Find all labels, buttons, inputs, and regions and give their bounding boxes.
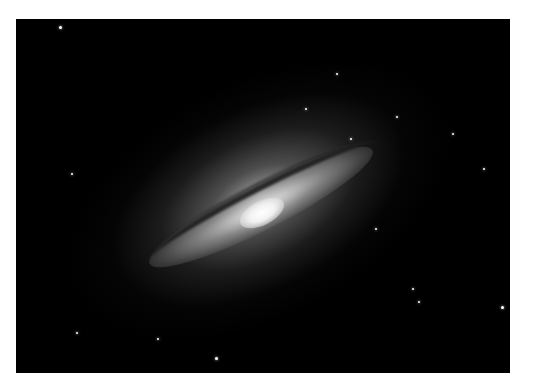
star	[305, 108, 307, 110]
star	[418, 301, 420, 303]
star	[501, 306, 504, 309]
galaxy-photo	[16, 19, 510, 373]
star	[157, 338, 159, 340]
star	[71, 173, 73, 175]
star	[483, 168, 485, 170]
star	[76, 332, 78, 334]
star	[396, 116, 398, 118]
star	[59, 26, 62, 29]
star	[350, 138, 352, 140]
star	[375, 228, 377, 230]
star	[336, 73, 338, 75]
star	[215, 357, 218, 360]
